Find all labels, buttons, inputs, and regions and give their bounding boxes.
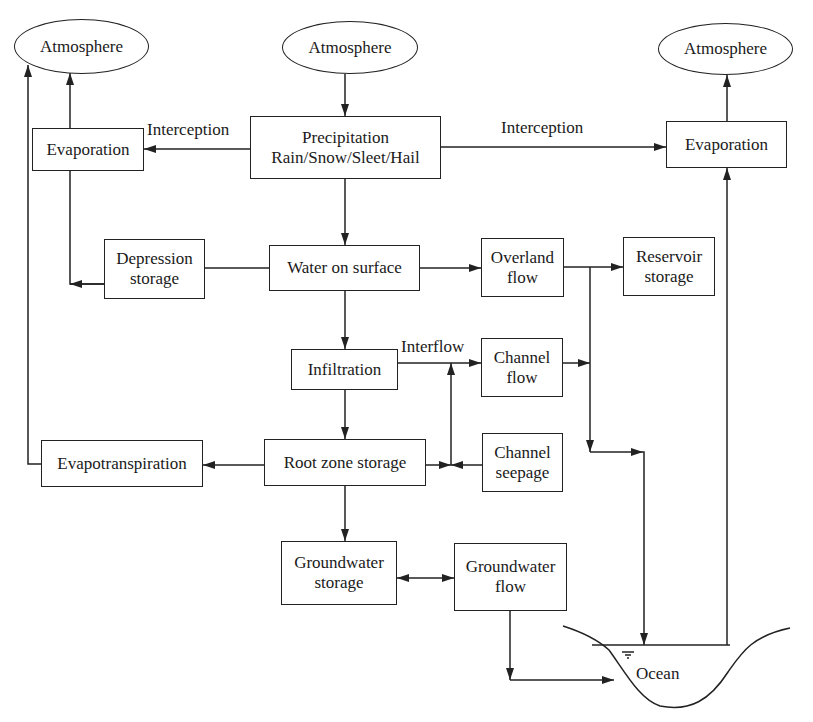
atmosphere-right-label: Atmosphere (684, 39, 767, 59)
channel-seepage-line1: Channel (494, 443, 551, 463)
evapotranspiration-node: Evapotranspiration (41, 440, 203, 487)
overland-flow-line1: Overland (491, 248, 554, 268)
water-level-icon (622, 652, 634, 658)
channel-seepage-line2: seepage (496, 463, 550, 483)
evapotranspiration-label: Evapotranspiration (57, 454, 186, 474)
precipitation-types-label: Rain/Snow/Sleet/Hail (271, 148, 419, 168)
precipitation-node: Precipitation Rain/Snow/Sleet/Hail (250, 116, 441, 179)
interflow-label: Interflow (401, 337, 464, 357)
groundwater-flow-node: Groundwater flow (454, 543, 567, 611)
infiltration-label: Infiltration (308, 360, 382, 380)
reservoir-storage-line2: storage (644, 267, 693, 287)
channel-flow-node: Channel flow (481, 338, 563, 397)
root-zone-storage-label: Root zone storage (284, 453, 407, 473)
ocean-label: Ocean (636, 664, 679, 684)
groundwater-storage-line1: Groundwater (294, 553, 384, 573)
atmosphere-left-node: Atmosphere (14, 19, 149, 74)
root-zone-storage-node: Root zone storage (264, 439, 426, 486)
groundwater-flow-line1: Groundwater (466, 557, 556, 577)
water-on-surface-node: Water on surface (269, 245, 420, 291)
groundwater-storage-node: Groundwater storage (281, 541, 397, 605)
connector-lines (0, 0, 813, 722)
atmosphere-center-label: Atmosphere (308, 38, 391, 58)
overland-flow-node: Overland flow (481, 238, 564, 297)
atmosphere-left-label: Atmosphere (40, 37, 123, 57)
evaporation-left-label: Evaporation (46, 140, 129, 160)
groundwater-flow-line2: flow (495, 577, 526, 597)
depression-storage-node: Depression storage (104, 239, 205, 299)
hydrologic-cycle-diagram: Atmosphere Atmosphere Atmosphere Evapora… (0, 0, 813, 722)
interception-left-label: Interception (147, 120, 229, 140)
evaporation-right-node: Evaporation (666, 121, 787, 168)
evaporation-left-node: Evaporation (32, 128, 144, 171)
depression-storage-line1: Depression (116, 249, 192, 269)
infiltration-node: Infiltration (291, 349, 398, 390)
edge-depression-to-evaporation (70, 171, 104, 284)
atmosphere-right-node: Atmosphere (658, 23, 793, 75)
depression-storage-line2: storage (130, 269, 179, 289)
water-on-surface-label: Water on surface (287, 258, 402, 278)
channel-seepage-node: Channel seepage (482, 433, 563, 492)
reservoir-storage-node: Reservoir storage (623, 237, 715, 296)
reservoir-storage-line1: Reservoir (636, 247, 702, 267)
evaporation-right-label: Evaporation (685, 135, 768, 155)
channel-flow-line2: flow (506, 368, 537, 388)
edge-runoff-to-ocean (643, 452, 644, 645)
groundwater-storage-line2: storage (314, 573, 363, 593)
precipitation-label: Precipitation (302, 128, 389, 148)
edge-evapotranspiration-to-atmosphere (28, 65, 41, 464)
channel-flow-line1: Channel (494, 348, 551, 368)
interception-right-label: Interception (501, 118, 583, 138)
overland-flow-line2: flow (507, 268, 538, 288)
atmosphere-center-node: Atmosphere (282, 21, 418, 74)
